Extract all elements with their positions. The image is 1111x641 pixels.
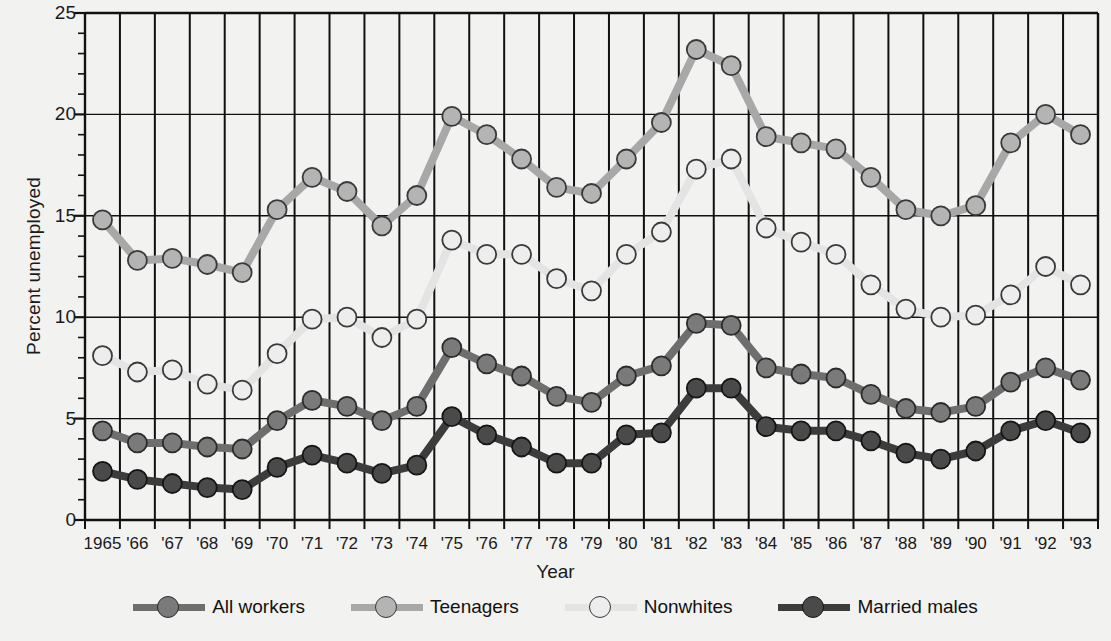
data-point-married-males-1976 xyxy=(477,425,496,444)
data-point-teenagers-1972 xyxy=(338,182,357,201)
data-point-all-workers-1973 xyxy=(372,411,391,430)
data-point-teenagers-1991 xyxy=(1001,133,1020,152)
data-point-all-workers-1989 xyxy=(931,403,950,422)
legend-marker-icon xyxy=(375,596,397,618)
data-point-married-males-1985 xyxy=(792,421,811,440)
x-tick-72: '72 xyxy=(336,534,358,554)
data-point-teenagers-1966 xyxy=(128,251,147,270)
data-point-nonwhites-1986 xyxy=(827,245,846,264)
x-tick-70: '70 xyxy=(266,534,288,554)
data-point-teenagers-1968 xyxy=(198,255,217,274)
data-point-married-males-1978 xyxy=(547,454,566,473)
data-point-married-males-1989 xyxy=(931,450,950,469)
data-point-nonwhites-1993 xyxy=(1071,275,1090,294)
data-point-married-males-1974 xyxy=(407,456,426,475)
x-tick-71: '71 xyxy=(301,534,323,554)
data-point-nonwhites-1976 xyxy=(477,245,496,264)
data-point-teenagers-1990 xyxy=(966,196,985,215)
data-point-married-males-1980 xyxy=(617,425,636,444)
data-point-married-males-1988 xyxy=(896,444,915,463)
data-point-nonwhites-1965 xyxy=(93,346,112,365)
y-axis-tick-labels: 0510152025 xyxy=(0,0,76,560)
data-point-all-workers-1970 xyxy=(268,411,287,430)
data-point-nonwhites-1973 xyxy=(372,328,391,347)
legend-item-married-males[interactable]: Married males xyxy=(778,596,977,618)
data-point-all-workers-1976 xyxy=(477,354,496,373)
y-tick-15: 15 xyxy=(30,205,76,227)
data-point-teenagers-1965 xyxy=(93,210,112,229)
x-tick-88: '88 xyxy=(895,534,917,554)
data-point-married-males-1971 xyxy=(303,446,322,465)
data-point-all-workers-1984 xyxy=(757,358,776,377)
data-point-nonwhites-1975 xyxy=(442,231,461,250)
x-tick-81: '81 xyxy=(650,534,672,554)
data-point-all-workers-1971 xyxy=(303,391,322,410)
data-point-all-workers-1992 xyxy=(1036,358,1055,377)
data-point-all-workers-1991 xyxy=(1001,373,1020,392)
data-point-nonwhites-1982 xyxy=(687,160,706,179)
data-point-nonwhites-1987 xyxy=(861,275,880,294)
data-point-all-workers-1987 xyxy=(861,385,880,404)
chart-legend: All workersTeenagersNonwhitesMarried mal… xyxy=(0,596,1111,618)
data-point-teenagers-1981 xyxy=(652,113,671,132)
x-tick-89: '89 xyxy=(930,534,952,554)
x-tick-92: '92 xyxy=(1035,534,1057,554)
data-point-all-workers-1985 xyxy=(792,365,811,384)
legend-label: All workers xyxy=(212,596,305,618)
legend-label: Married males xyxy=(857,596,977,618)
legend-item-nonwhites[interactable]: Nonwhites xyxy=(565,596,733,618)
x-tick-74: '74 xyxy=(406,534,428,554)
data-point-teenagers-1967 xyxy=(163,249,182,268)
data-point-married-males-1987 xyxy=(861,431,880,450)
data-point-nonwhites-1983 xyxy=(722,150,741,169)
y-tick-0: 0 xyxy=(30,509,76,531)
data-point-all-workers-1967 xyxy=(163,433,182,452)
legend-item-teenagers[interactable]: Teenagers xyxy=(351,596,519,618)
x-tick-75: '75 xyxy=(441,534,463,554)
x-tick-1965: 1965 xyxy=(84,534,122,554)
data-point-nonwhites-1989 xyxy=(931,308,950,327)
data-point-married-males-1984 xyxy=(757,417,776,436)
data-point-teenagers-1988 xyxy=(896,200,915,219)
data-point-all-workers-1972 xyxy=(338,397,357,416)
data-point-all-workers-1990 xyxy=(966,397,985,416)
y-tick-20: 20 xyxy=(30,103,76,125)
x-tick-93: '93 xyxy=(1069,534,1091,554)
legend-marker-icon xyxy=(157,596,179,618)
legend-swatch-nonwhites xyxy=(565,596,637,618)
x-tick-80: '80 xyxy=(615,534,637,554)
data-point-teenagers-1989 xyxy=(931,206,950,225)
data-point-married-males-1967 xyxy=(163,474,182,493)
data-point-all-workers-1979 xyxy=(582,393,601,412)
legend-item-all-workers[interactable]: All workers xyxy=(133,596,305,618)
data-point-nonwhites-1981 xyxy=(652,223,671,242)
legend-swatch-all-workers xyxy=(133,596,205,618)
data-point-married-males-1970 xyxy=(268,458,287,477)
data-point-married-males-1993 xyxy=(1071,423,1090,442)
data-point-all-workers-1968 xyxy=(198,438,217,457)
data-point-married-males-1979 xyxy=(582,454,601,473)
data-point-teenagers-1987 xyxy=(861,168,880,187)
x-tick-66: '66 xyxy=(126,534,148,554)
data-point-nonwhites-1968 xyxy=(198,375,217,394)
x-tick-86: '86 xyxy=(825,534,847,554)
y-tick-25: 25 xyxy=(30,2,76,24)
y-tick-5: 5 xyxy=(30,408,76,430)
x-tick-84: '84 xyxy=(755,534,777,554)
data-point-married-males-1991 xyxy=(1001,421,1020,440)
data-point-nonwhites-1990 xyxy=(966,306,985,325)
data-point-teenagers-1983 xyxy=(722,56,741,75)
legend-label: Nonwhites xyxy=(644,596,733,618)
data-point-teenagers-1980 xyxy=(617,150,636,169)
legend-swatch-married-males xyxy=(778,596,850,618)
data-point-all-workers-1965 xyxy=(93,421,112,440)
x-tick-77: '77 xyxy=(511,534,533,554)
data-point-nonwhites-1991 xyxy=(1001,285,1020,304)
data-point-nonwhites-1969 xyxy=(233,381,252,400)
data-point-nonwhites-1988 xyxy=(896,300,915,319)
data-point-married-males-1972 xyxy=(338,454,357,473)
x-tick-76: '76 xyxy=(476,534,498,554)
data-point-nonwhites-1970 xyxy=(268,344,287,363)
data-point-all-workers-1986 xyxy=(827,369,846,388)
data-point-teenagers-1977 xyxy=(512,150,531,169)
